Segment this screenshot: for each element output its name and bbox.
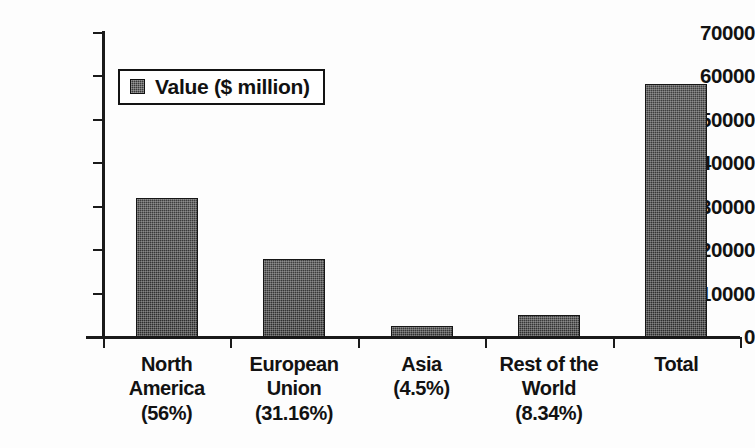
bar-chart: 700006000050000400003000020000100000 Val…	[0, 0, 755, 448]
category-label-line: (56%)	[103, 401, 230, 425]
bar	[518, 315, 580, 337]
x-axis-category-label: Rest of theWorld(8.34%)	[485, 352, 612, 425]
category-label-line: World	[485, 376, 612, 400]
legend-swatch-icon	[130, 79, 145, 94]
y-axis-tick	[93, 119, 103, 121]
bar	[391, 326, 453, 337]
chart-legend: Value ($ million)	[118, 69, 325, 105]
category-label-line: (8.34%)	[485, 401, 612, 425]
category-label-line: (4.5%)	[358, 376, 485, 400]
category-label-line: Union	[230, 376, 357, 400]
y-axis-tick	[93, 293, 103, 295]
x-axis-tick	[740, 337, 742, 348]
x-axis-category-label: EuropeanUnion(31.16%)	[230, 352, 357, 425]
y-axis-tick	[93, 162, 103, 164]
bar	[645, 84, 707, 337]
category-label-line: Rest of the	[485, 352, 612, 376]
category-label-line: Total	[613, 352, 740, 376]
x-axis-category-label: NorthAmerica(56%)	[103, 352, 230, 425]
y-axis-tick	[93, 75, 103, 77]
x-axis-tick	[103, 337, 105, 348]
y-axis-tick	[93, 249, 103, 251]
category-label-line: (31.16%)	[230, 401, 357, 425]
category-label-line: America	[103, 376, 230, 400]
x-axis-category-label: Asia(4.5%)	[358, 352, 485, 401]
x-axis-category-label: Total	[613, 352, 740, 376]
x-axis-tick	[613, 337, 615, 348]
bar	[136, 198, 198, 337]
category-label-line: North	[103, 352, 230, 376]
y-axis-tick	[93, 336, 103, 338]
category-label-line: Asia	[358, 352, 485, 376]
category-label-line: European	[230, 352, 357, 376]
x-axis-tick	[230, 337, 232, 348]
legend-label: Value ($ million)	[155, 76, 310, 97]
y-axis-tick	[93, 32, 103, 34]
x-axis-tick	[358, 337, 360, 348]
bar	[263, 259, 325, 337]
y-axis-tick	[93, 206, 103, 208]
x-axis-tick	[485, 337, 487, 348]
